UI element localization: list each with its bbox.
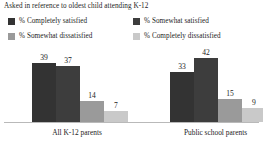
bar-rect (104, 111, 128, 122)
bar-value-label: 7 (104, 101, 128, 110)
bar-rect (170, 72, 194, 122)
legend-item-completely-dissatisfied: % Completely dissatisfied (133, 32, 221, 40)
category-label-public-school-parents: Public school parents (158, 128, 263, 138)
bar-value-label: 42 (194, 48, 218, 57)
bar-value-label: 33 (170, 62, 194, 71)
legend-label-completely-satisfied: % Completely satisfied (19, 17, 87, 25)
bar-rect (218, 99, 242, 122)
bar-slot: 7 (104, 46, 128, 122)
bar-rect (242, 108, 263, 122)
bar-rect (194, 58, 218, 122)
bar-slot: 15 (218, 46, 242, 122)
bar-slot: 14 (80, 46, 104, 122)
bar-value-label: 14 (80, 91, 104, 100)
bar-slot: 9 (242, 46, 263, 122)
legend-label-somewhat-dissatisfied: % Somewhat dissatisfied (19, 32, 92, 40)
bar-rect (80, 101, 104, 122)
bar-group-public-school-parents: 33 42 15 9 (170, 46, 260, 122)
bar-value-label: 39 (32, 53, 56, 62)
legend-swatch-somewhat-satisfied (133, 18, 140, 25)
legend-label-completely-dissatisfied: % Completely dissatisfied (144, 32, 221, 40)
bar-slot: 33 (170, 46, 194, 122)
legend-item-somewhat-satisfied: % Somewhat satisfied (133, 17, 209, 25)
bar-value-label: 9 (242, 98, 263, 107)
chart-plot-area: 39 37 14 7 33 42 15 9 (0, 46, 263, 142)
legend-swatch-completely-dissatisfied (133, 33, 140, 40)
chart-legend: % Completely satisfied % Somewhat satisf… (4, 17, 259, 45)
bar-rect (56, 66, 80, 122)
category-label-all-k12-parents: All K-12 parents (22, 128, 132, 138)
legend-label-somewhat-satisfied: % Somewhat satisfied (144, 17, 209, 25)
bar-slot: 39 (32, 46, 56, 122)
bar-value-label: 37 (56, 56, 80, 65)
legend-swatch-somewhat-dissatisfied (8, 33, 15, 40)
legend-item-somewhat-dissatisfied: % Somewhat dissatisfied (8, 32, 92, 40)
bar-value-label: 15 (218, 89, 242, 98)
bar-slot: 37 (56, 46, 80, 122)
chart-baseline-axis (4, 122, 259, 123)
chart-note: Asked in reference to oldest child atten… (4, 2, 148, 11)
bar-group-all-k12-parents: 39 37 14 7 (32, 46, 122, 122)
legend-item-completely-satisfied: % Completely satisfied (8, 17, 87, 25)
bar-slot: 42 (194, 46, 218, 122)
legend-swatch-completely-satisfied (8, 18, 15, 25)
bar-rect (32, 63, 56, 122)
